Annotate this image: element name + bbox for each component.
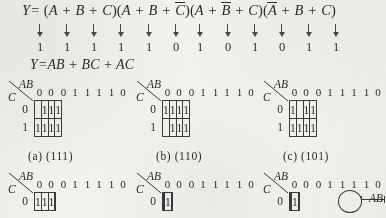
kmap-grid: 1 1 1 1 1 1 1: [34, 100, 62, 137]
down-arrow-icon: [148, 24, 149, 36]
kmap-cell[interactable]: 1: [35, 119, 42, 137]
bit-value: 1: [88, 41, 100, 53]
kmap-col-header: 1 0: [361, 178, 385, 190]
kmap-axis-label-ab: AB: [147, 170, 161, 182]
kmap-row-header: 1: [146, 121, 160, 133]
kmap-axis-label-c: C: [8, 183, 16, 195]
kmap-cell[interactable]: 1: [290, 101, 297, 119]
kmap-caption-c: (c) (101): [283, 150, 329, 162]
kmap-row: 1 1 1 1: [163, 101, 190, 119]
kmap-grid: 1: [162, 192, 173, 211]
kmap-col-header: 1 1: [82, 178, 106, 190]
kmap-cell[interactable]: [163, 119, 170, 137]
kmap-cell[interactable]: 1: [176, 101, 183, 119]
kmap-col-header: 1 1: [210, 178, 234, 190]
down-arrow-icon: [93, 24, 94, 36]
kmap-column-headers: 0 0 0 1 1 1 1 0: [289, 178, 385, 190]
kmap-column-headers: 0 0 0 1 1 1 1 0: [162, 86, 258, 98]
kmap-col-header: 0 1: [313, 86, 337, 98]
sop-equation: Y=AB + BC + AC: [30, 57, 134, 73]
kmap-col-header: 0 1: [58, 178, 82, 190]
kmap-cell[interactable]: 1: [48, 193, 55, 211]
pos-factor-2: (A + B + C): [117, 2, 190, 19]
kmap-col-header: 1 0: [106, 86, 130, 98]
kmap-leader-tick: [384, 196, 385, 203]
sop-equation-text: Y=AB + BC + AC: [30, 57, 134, 72]
kmap-cell[interactable]: 1: [55, 119, 62, 137]
kmap-cell[interactable]: 1: [41, 101, 48, 119]
kmap-column-headers: 0 0 0 1 1 1 1 0: [34, 178, 130, 190]
kmap-row: 1 1 1: [163, 119, 190, 137]
kmap-col-header: 0 0: [34, 86, 58, 98]
bit-value: 1: [330, 41, 342, 53]
kmap-cell[interactable]: 1: [296, 119, 303, 137]
down-arrow-icon: [199, 24, 200, 36]
kmap-cell[interactable]: [298, 193, 299, 211]
kmap-axis-label-ab: AB: [19, 170, 33, 182]
kmap-row: 1 1 1 1: [290, 119, 317, 137]
kmap-group-loop: [338, 190, 362, 213]
kmap-row: 1 1 1: [290, 101, 317, 119]
kmap-row: 1: [163, 193, 173, 211]
kmap-grid: 1 1 1 1 1 1 1: [289, 100, 317, 137]
kmap-row-header: 1: [18, 121, 32, 133]
kmap-axis-label-c: C: [136, 183, 144, 195]
kmap-cell[interactable]: 1: [183, 119, 190, 137]
kmap-cell[interactable]: 1: [169, 101, 176, 119]
kmap-row: 1 1 1: [35, 193, 56, 211]
kmap-row-header: 0: [273, 195, 287, 207]
kmap-axis-label-c: C: [8, 91, 16, 103]
kmap-row: 1 1 1: [35, 101, 62, 119]
kmap-row: 1: [290, 193, 300, 211]
kmap-col-header: 1 0: [234, 178, 258, 190]
kmap-cell[interactable]: 1: [303, 101, 310, 119]
kmap-axis-label-c: C: [136, 91, 144, 103]
bit-value: 1: [303, 41, 315, 53]
kmap-cell[interactable]: 1: [163, 101, 170, 119]
kmap-col-header: 0 0: [289, 178, 313, 190]
kmap-cell[interactable]: 1: [290, 119, 297, 137]
kmap-grid: 1 1 1: [34, 192, 56, 211]
kmap-col-header: 1 1: [82, 86, 106, 98]
kmap-row-header: 0: [18, 103, 32, 115]
kmap-cell[interactable]: 1: [55, 101, 62, 119]
kmap-cell[interactable]: 1: [292, 193, 299, 211]
kmap-col-header: 0 1: [186, 178, 210, 190]
kmap-cell[interactable]: 1: [48, 119, 55, 137]
pos-factor-1: (A + B + C): [40, 2, 117, 19]
kmap-cell[interactable]: [171, 193, 172, 211]
kmap-col-header: 0 1: [58, 86, 82, 98]
kmap-cell[interactable]: 1: [303, 119, 310, 137]
kmap-cell[interactable]: 1: [48, 101, 55, 119]
kmap-col-header: 0 0: [289, 86, 313, 98]
kmap-cell[interactable]: 1: [310, 119, 317, 137]
kmap-cell[interactable]: 1: [41, 119, 48, 137]
kmap-col-header: 1 1: [337, 178, 361, 190]
kmap-axis-label-c: C: [263, 91, 271, 103]
kmap-row: 1 1 1 1: [35, 119, 62, 137]
kmap-cell[interactable]: 1: [310, 101, 317, 119]
down-arrow-icon: [335, 24, 336, 36]
kmap-axis-label-c: C: [263, 183, 271, 195]
kmap-column-headers: 0 0 0 1 1 1 1 0: [289, 86, 385, 98]
kmap-grid: 1: [289, 192, 300, 211]
kmap-cell[interactable]: 1: [176, 119, 183, 137]
down-arrow-icon: [66, 24, 67, 36]
bit-value: 1: [115, 41, 127, 53]
kmap-col-header: 0 0: [34, 178, 58, 190]
kmap-cell[interactable]: [35, 101, 42, 119]
kmap-cell[interactable]: 1: [183, 101, 190, 119]
kmap-row-header: 0: [146, 103, 160, 115]
kmap-col-header: 0 1: [186, 86, 210, 98]
kmap-column-headers: 0 0 0 1 1 1 1 0: [34, 86, 130, 98]
kmap-cell[interactable]: [296, 101, 303, 119]
kmap-cell[interactable]: 1: [35, 193, 42, 211]
kmap-cell[interactable]: 1: [165, 193, 172, 211]
bit-value: 1: [194, 41, 206, 53]
bit-value: 1: [34, 41, 46, 53]
kmap-cell[interactable]: 1: [41, 193, 48, 211]
kmap-cell[interactable]: [55, 193, 56, 211]
kmap-cell[interactable]: 1: [169, 119, 176, 137]
kmap-grid: 1 1 1 1 1 1 1: [162, 100, 190, 137]
pos-equation: Y= (A + B + C) (A + B + C) (A + B + C) (…: [22, 2, 336, 19]
